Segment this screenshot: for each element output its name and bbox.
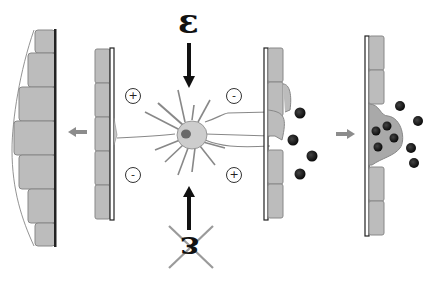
charge-bottom-right: + [226,167,242,183]
neuron [117,90,270,175]
right-arrow-icon [336,129,355,139]
stimulus-label: ε [178,4,199,38]
proliferated-cell-layer [12,29,57,247]
diagram-canvas: ε ε + - - + [0,0,435,284]
down-arrow-icon [183,43,195,88]
right-membrane [264,48,291,220]
charge-bottom-left: - [125,167,141,183]
nucleus [181,130,191,139]
charge-top-left: + [125,88,141,104]
left-membrane [95,48,117,220]
up-arrow-icon [183,186,195,230]
granules-released [288,108,318,180]
left-arrow-icon [68,127,87,137]
blocked-stimulus-label: ε [180,232,199,264]
charge-top-right: - [226,88,242,104]
